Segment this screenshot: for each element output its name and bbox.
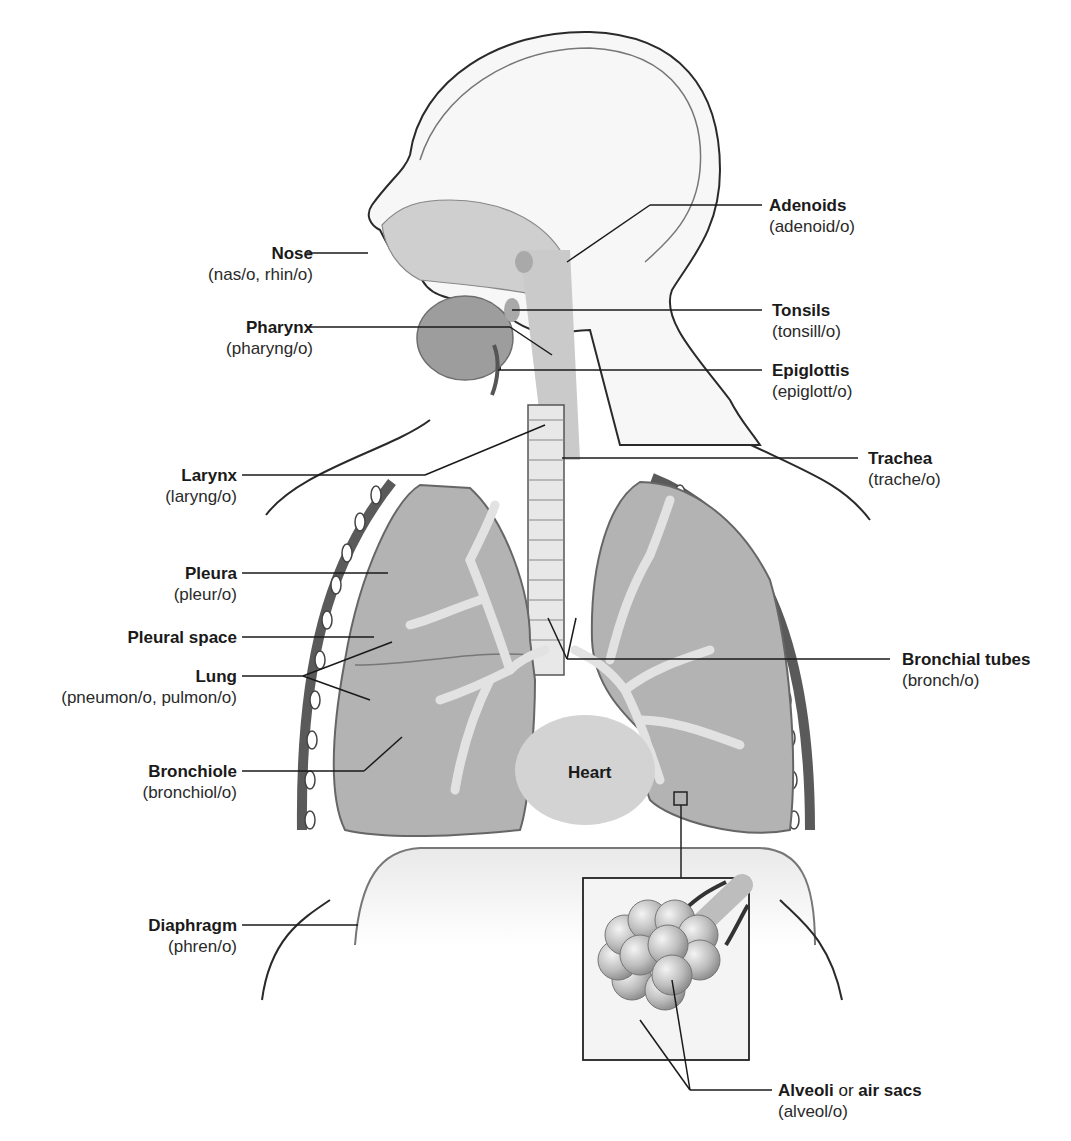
label-root: (alveol/o) — [778, 1101, 922, 1122]
label-pleural-space: Pleural space — [127, 627, 237, 648]
label-epiglottis: Epiglottis (epiglott/o) — [772, 360, 852, 402]
label-term: Alveoli — [778, 1081, 834, 1100]
label-root: (bronch/o) — [902, 670, 1030, 691]
label-root: (laryng/o) — [165, 486, 237, 507]
label-bronchiole: Bronchiole (bronchiol/o) — [143, 761, 238, 803]
label-connector: or — [834, 1081, 859, 1100]
label-term-alt: air sacs — [858, 1081, 921, 1100]
label-term: Epiglottis — [772, 360, 852, 381]
label-root: (epiglott/o) — [772, 381, 852, 402]
label-term: Pleural space — [127, 627, 237, 648]
label-term: Bronchial tubes — [902, 649, 1030, 670]
label-root: (adenoid/o) — [769, 216, 855, 237]
label-term: Nose — [208, 243, 313, 264]
label-root: (trache/o) — [868, 469, 941, 490]
label-root: (phren/o) — [148, 936, 237, 957]
label-tonsils: Tonsils (tonsill/o) — [772, 300, 841, 342]
head — [369, 32, 760, 460]
label-root: (tonsill/o) — [772, 321, 841, 342]
label-root: (pharyng/o) — [226, 338, 313, 359]
label-term: Pleura — [174, 563, 237, 584]
label-diaphragm: Diaphragm (phren/o) — [148, 915, 237, 957]
label-bronchial-tubes: Bronchial tubes (bronch/o) — [902, 649, 1030, 691]
label-larynx: Larynx (laryng/o) — [165, 465, 237, 507]
label-root: (bronchiol/o) — [143, 782, 238, 803]
label-term-line: Alveoli or air sacs — [778, 1080, 922, 1101]
label-term: Bronchiole — [143, 761, 238, 782]
label-term: Larynx — [165, 465, 237, 486]
label-pharynx: Pharynx (pharyng/o) — [226, 317, 313, 359]
label-root: (pneumon/o, pulmon/o) — [61, 687, 237, 708]
label-lung: Lung (pneumon/o, pulmon/o) — [61, 666, 237, 708]
label-trachea: Trachea (trache/o) — [868, 448, 941, 490]
label-root: (nas/o, rhin/o) — [208, 264, 313, 285]
label-adenoids: Adenoids (adenoid/o) — [769, 195, 855, 237]
label-term: Diaphragm — [148, 915, 237, 936]
label-term: Adenoids — [769, 195, 855, 216]
label-nose: Nose (nas/o, rhin/o) — [208, 243, 313, 285]
label-alveoli: Alveoli or air sacs (alveol/o) — [778, 1080, 922, 1122]
label-pleura: Pleura (pleur/o) — [174, 563, 237, 605]
label-root: (pleur/o) — [174, 584, 237, 605]
alveoli-inset — [583, 792, 749, 1060]
respiratory-diagram: Nose (nas/o, rhin/o) Pharynx (pharyng/o)… — [0, 0, 1071, 1141]
label-term: Lung — [61, 666, 237, 687]
anatomy-illustration — [0, 0, 1071, 1141]
diaphragm-shape — [262, 848, 842, 1000]
label-term: Trachea — [868, 448, 941, 469]
label-term: Tonsils — [772, 300, 841, 321]
trachea-shape — [528, 405, 564, 675]
label-heart: Heart — [568, 763, 611, 783]
label-term: Pharynx — [226, 317, 313, 338]
